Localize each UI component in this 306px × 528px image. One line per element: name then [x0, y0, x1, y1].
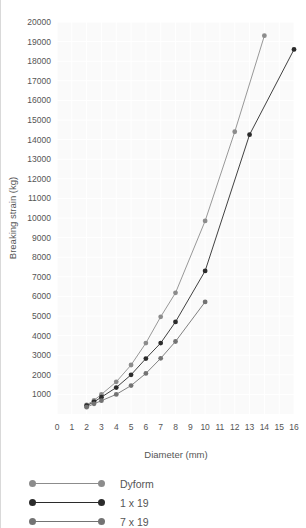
legend-item-label: 1 x 19	[120, 497, 149, 509]
legend-swatch-icon	[28, 478, 106, 490]
svg-text:20000: 20000	[27, 17, 51, 27]
svg-text:11000: 11000	[28, 193, 51, 203]
data-point	[262, 33, 267, 38]
legend-item-label: 7 x 19	[120, 516, 149, 528]
data-point	[173, 319, 178, 324]
svg-text:8: 8	[173, 422, 178, 432]
svg-text:3000: 3000	[32, 350, 51, 360]
svg-text:18000: 18000	[27, 56, 51, 66]
svg-text:4000: 4000	[32, 331, 51, 341]
svg-text:9: 9	[188, 422, 193, 432]
legend-item-1-x-19[interactable]: 1 x 19	[0, 493, 306, 512]
y-axis-title: Breaking strain (kg)	[7, 177, 18, 259]
svg-text:2000: 2000	[32, 370, 51, 380]
svg-text:5000: 5000	[32, 311, 51, 321]
svg-text:17000: 17000	[27, 76, 51, 86]
data-point	[232, 129, 237, 134]
data-point	[173, 290, 178, 295]
data-point	[143, 341, 148, 346]
svg-text:4: 4	[114, 422, 119, 432]
svg-text:5: 5	[129, 422, 134, 432]
svg-text:16000: 16000	[27, 95, 51, 105]
data-point	[292, 47, 297, 52]
chart-page: 1000200030004000500060007000800090001000…	[0, 0, 306, 528]
svg-text:11: 11	[216, 422, 225, 432]
data-point	[114, 392, 119, 397]
data-point	[114, 379, 119, 384]
data-point	[173, 339, 178, 344]
data-point	[158, 314, 163, 319]
svg-text:0: 0	[55, 422, 60, 432]
svg-text:12000: 12000	[27, 174, 51, 184]
legend-item-dyform[interactable]: Dyform	[0, 474, 306, 493]
svg-text:1: 1	[69, 422, 74, 432]
svg-text:6: 6	[144, 422, 149, 432]
legend-swatch-icon	[28, 497, 106, 509]
svg-text:9000: 9000	[32, 233, 51, 243]
svg-text:7: 7	[158, 422, 163, 432]
x-axis-title: Diameter (mm)	[144, 449, 207, 460]
data-point	[99, 398, 104, 403]
y-axis-tick-labels: 1000200030004000500060007000800090001000…	[27, 17, 51, 399]
chart-legend: Dyform1 x 197 x 19	[0, 470, 306, 528]
svg-text:10000: 10000	[27, 213, 51, 223]
data-point	[129, 372, 134, 377]
svg-text:10: 10	[200, 422, 210, 432]
svg-text:14: 14	[260, 422, 270, 432]
svg-text:1000: 1000	[32, 389, 51, 399]
svg-text:15000: 15000	[27, 115, 51, 125]
svg-text:2: 2	[84, 422, 89, 432]
svg-text:8000: 8000	[32, 252, 51, 262]
svg-text:12: 12	[230, 422, 240, 432]
data-point	[158, 356, 163, 361]
x-axis-tick-labels: 012345678910111213141516	[55, 422, 299, 432]
chart-container: 1000200030004000500060007000800090001000…	[0, 0, 306, 470]
svg-text:19000: 19000	[27, 37, 51, 47]
data-point	[129, 383, 134, 388]
data-point	[143, 356, 148, 361]
data-point	[129, 363, 134, 368]
svg-text:13: 13	[245, 422, 255, 432]
legend-item-7-x-19[interactable]: 7 x 19	[0, 512, 306, 528]
data-point	[84, 405, 89, 410]
data-point	[114, 385, 119, 390]
legend-item-label: Dyform	[120, 478, 154, 490]
data-point	[203, 219, 208, 224]
svg-text:7000: 7000	[32, 272, 51, 282]
svg-text:14000: 14000	[27, 135, 51, 145]
data-point	[158, 341, 163, 346]
svg-text:6000: 6000	[32, 291, 51, 301]
gridlines	[57, 22, 294, 414]
svg-text:3: 3	[99, 422, 104, 432]
svg-text:13000: 13000	[27, 154, 51, 164]
legend-swatch-icon	[28, 516, 106, 528]
data-point	[203, 299, 208, 304]
data-point	[92, 401, 97, 406]
data-point	[143, 371, 148, 376]
svg-text:16: 16	[289, 422, 299, 432]
data-point	[203, 269, 208, 274]
data-point	[247, 132, 252, 137]
svg-text:15: 15	[274, 422, 284, 432]
breaking-strain-line-chart: 1000200030004000500060007000800090001000…	[0, 0, 306, 470]
